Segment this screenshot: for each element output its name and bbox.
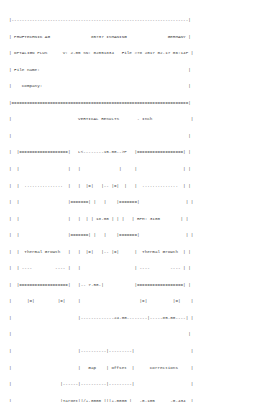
header-company-line: | PRUFTECHNIK AG 85737 ISMANING GERMANY …	[9, 34, 193, 40]
vertical-diagram-line: | | | | | | 18.00 | | | | RPM: 3100 | |	[9, 216, 193, 222]
separator: |=======================================…	[9, 100, 193, 106]
vertical-table-line: | |----------|---------| |	[9, 348, 193, 354]
vertical-diagram-line: | | |=======| | | |=======| | |	[9, 199, 193, 205]
vertical-table-line: | |------|----------|---------| |	[9, 381, 193, 387]
report-line: |---------------------------------------…	[9, 17, 193, 23]
file-name-line: | File name: |	[9, 67, 193, 73]
vertical-diagram-line: | |===================| |-- 7.50-| |====…	[9, 282, 193, 288]
vertical-diagram-line: | | | | | | | |	[9, 166, 193, 172]
company-line: | Company: |	[9, 83, 193, 89]
vertical-diagram-line: | | Thermal Growth | | |=| |-- |=| | The…	[9, 249, 193, 255]
vertical-dimension-line: | |-------------24.00--------|-----85.00…	[9, 315, 193, 321]
report-line: | |	[9, 331, 193, 337]
vertical-results-title: | VERTICAL RESULTS - Inch |	[9, 116, 193, 122]
report-line: | |	[9, 133, 193, 139]
vertical-table-header: | | Gap | Offset | Corrections |	[9, 365, 193, 371]
vertical-diagram-line: | |===================| L<--------15.00-…	[9, 149, 193, 155]
header-product-line: | OPTALIGN PLUS V: 2.05 SN: 02051834 Fil…	[9, 50, 193, 56]
vertical-diagram-line: | | |=======| | | |=======| | |	[9, 232, 193, 238]
vertical-diagram-line: | |=| |=| | |=| |=| |	[9, 298, 193, 304]
alignment-report-printout: |---------------------------------------…	[9, 6, 193, 402]
vertical-diagram-line: | | ............... | | |=| |-- |=| | | …	[9, 183, 193, 189]
vertical-table-target-row: | |Target||/+.0000 |||+.0000 | -0.105 -0…	[9, 398, 193, 402]
vertical-diagram-line: | | ---- ---- | | | ---- ---- | |	[9, 265, 193, 271]
